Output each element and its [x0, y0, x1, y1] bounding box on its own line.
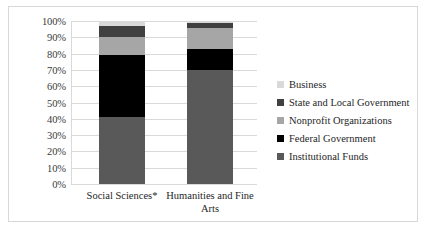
chart-container: 100%90%80%70%60%50%40%30%20%10%0% Social… [8, 6, 418, 222]
legend-label: Federal Government [289, 133, 376, 144]
legend-swatch-icon [277, 81, 284, 88]
y-axis-tick-label: 60% [47, 81, 66, 92]
bar-segment [187, 28, 233, 49]
bar-segment [99, 26, 145, 37]
legend-label: Institutional Funds [289, 151, 368, 162]
chart-legend: BusinessState and Local GovernmentNonpro… [277, 75, 409, 165]
category-label-line: Arts [156, 202, 264, 215]
legend-item[interactable]: Nonprofit Organizations [277, 111, 409, 129]
y-axis-tick-label: 50% [47, 97, 66, 108]
bar-segment [187, 21, 233, 23]
plot-area: 100%90%80%70%60%50%40%30%20%10%0% Social… [71, 21, 257, 184]
bar-segment [99, 21, 145, 26]
y-axis-tick-label: 100% [42, 16, 66, 27]
category-label: Humanities and FineArts [156, 189, 264, 215]
y-axis-tick-label: 70% [47, 64, 66, 75]
legend-swatch-icon [277, 135, 284, 142]
gridline: 0% [71, 184, 257, 185]
bar-segment [187, 49, 233, 70]
bar-segment [99, 117, 145, 184]
y-axis-tick-label: 20% [47, 146, 66, 157]
y-axis-tick-label: 40% [47, 113, 66, 124]
y-axis-tick-label: 90% [47, 32, 66, 43]
legend-label: Business [289, 79, 326, 90]
y-axis-tick-label: 80% [47, 48, 66, 59]
legend-swatch-icon [277, 99, 284, 106]
stacked-bar [99, 21, 145, 184]
legend-swatch-icon [277, 117, 284, 124]
legend-item[interactable]: State and Local Government [277, 93, 409, 111]
legend-item[interactable]: Federal Government [277, 129, 409, 147]
bar-segment [99, 37, 145, 55]
stacked-bar [187, 21, 233, 184]
y-axis-tick-label: 0% [52, 179, 66, 190]
legend-label: State and Local Government [289, 97, 409, 108]
bar-segment [187, 70, 233, 184]
legend-label: Nonprofit Organizations [289, 115, 392, 126]
bar-segment [99, 55, 145, 117]
legend-swatch-icon [277, 153, 284, 160]
category-label-line: Humanities and Fine [156, 189, 264, 202]
legend-item[interactable]: Business [277, 75, 409, 93]
y-axis-tick-label: 30% [47, 130, 66, 141]
y-axis-tick-label: 10% [47, 162, 66, 173]
legend-item[interactable]: Institutional Funds [277, 147, 409, 165]
bar-segment [187, 23, 233, 28]
